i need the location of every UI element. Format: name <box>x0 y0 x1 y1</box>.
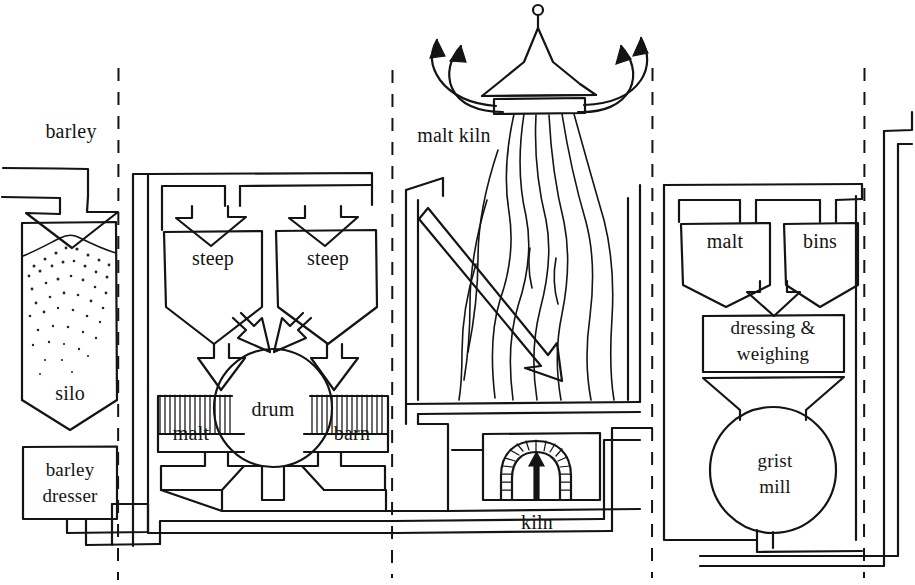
drum-outlet-ducts <box>161 452 448 511</box>
label-bins: bins <box>803 230 837 253</box>
label-barley: barley <box>45 120 96 143</box>
barley-intake-duct <box>2 168 88 198</box>
label-grist-line1: grist <box>758 451 793 471</box>
kiln-enclosure <box>406 178 640 424</box>
label-kiln-furnace: kiln <box>521 511 553 534</box>
dashed-divider-2 <box>392 70 393 578</box>
kiln-pagoda-roof <box>482 28 596 114</box>
steep-feed-duct <box>148 173 372 390</box>
grist-mill-hopper <box>703 377 844 420</box>
steep-left-inner-arrow <box>233 313 270 352</box>
dashed-divider-4 <box>864 68 865 578</box>
steep-left-inlet-arrow <box>176 206 246 246</box>
silo-grain-stipple <box>28 247 111 375</box>
label-silo: silo <box>55 382 85 405</box>
dashed-divider-3 <box>652 68 653 578</box>
bins-outlet-arrow <box>747 281 800 316</box>
label-drum: drum <box>251 398 294 421</box>
kiln-heat-wavy-lines <box>459 114 614 400</box>
label-malt-bin: malt <box>707 230 743 253</box>
steep-left-outlet-arrow <box>198 344 245 390</box>
label-malt-barn-right: barn <box>334 422 370 445</box>
label-steep-right: steep <box>307 247 349 270</box>
label-barley-dresser-line1: barley <box>46 460 95 480</box>
label-steep-left: steep <box>192 247 234 270</box>
steep-right-outlet-arrow <box>311 344 358 390</box>
label-dressing-line2: weighing <box>737 344 809 364</box>
label-dressing-line1: dressing & <box>731 318 816 338</box>
kiln-cowl-finial <box>533 5 543 28</box>
barley-dresser-outlet-duct <box>67 504 160 545</box>
kiln-furnace-up-arrow <box>529 452 544 500</box>
kiln-malt-flow-arrow <box>419 208 562 381</box>
label-malt-barn-left: malt <box>173 422 209 445</box>
steep-right-inlet-arrow <box>289 206 358 246</box>
barley-dresser-box <box>23 447 117 520</box>
section4-return-duct <box>700 112 912 566</box>
label-grist-line2: mill <box>759 477 790 497</box>
process-diagram: .k{fill:none;stroke:#141414;stroke-width… <box>0 0 915 585</box>
label-barley-dresser-line2: dresser <box>42 486 97 506</box>
diagram-artwork: .k{fill:none;stroke:#141414;stroke-width… <box>0 0 915 585</box>
label-malt-kiln: malt kiln <box>417 124 490 147</box>
